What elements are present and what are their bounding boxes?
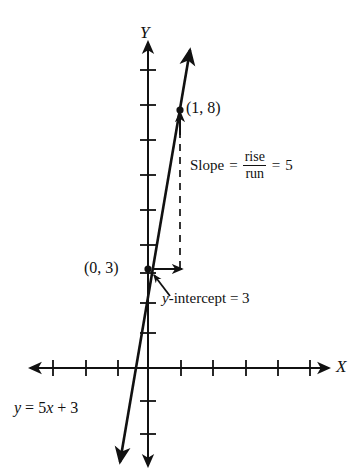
- fraction-denominator-run: run: [243, 165, 266, 181]
- y-intercept-variable: y: [162, 290, 169, 306]
- point-label-1-8: (1, 8): [186, 100, 221, 116]
- slope-value: 5: [285, 158, 293, 173]
- equation-constant: 3: [70, 399, 78, 416]
- point-marker-0-3: [144, 265, 151, 272]
- x-axis: [30, 360, 329, 376]
- y-intercept-word: -intercept: [169, 290, 226, 306]
- equation-annotation: y = 5x + 3: [14, 400, 78, 416]
- y-intercept-equals: =: [230, 290, 238, 306]
- slope-equals-1: =: [229, 158, 237, 173]
- graph-figure: Y X (1, 8) (0, 3) Slope = rise run = 5 y…: [0, 0, 359, 476]
- fraction-numerator-rise: rise: [243, 150, 267, 165]
- point-label-0-3: (0, 3): [84, 260, 119, 276]
- slope-word: Slope: [190, 158, 224, 173]
- point-marker-1-8: [176, 106, 183, 113]
- y-axis: [140, 42, 156, 466]
- equation-y-variable: y: [14, 399, 21, 416]
- rise-over-run-fraction: rise run: [243, 150, 267, 182]
- slope-annotation: Slope = rise run = 5: [190, 150, 293, 182]
- slope-equals-2: =: [272, 158, 280, 173]
- x-axis-label: X: [336, 358, 346, 375]
- y-intercept-value: 3: [242, 290, 250, 306]
- equation-coefficient: 5: [38, 399, 46, 416]
- equation-plus: +: [57, 399, 66, 416]
- equation-x-variable: x: [46, 399, 53, 416]
- equation-equals: =: [25, 399, 34, 416]
- y-intercept-annotation: y-intercept = 3: [162, 291, 250, 306]
- y-axis-label: Y: [140, 24, 149, 41]
